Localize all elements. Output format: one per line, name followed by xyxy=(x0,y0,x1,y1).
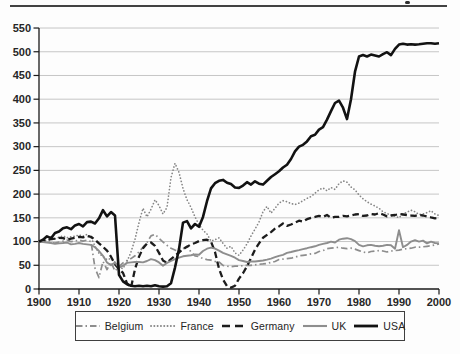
legend-item-usa: USA xyxy=(353,320,405,332)
legend-label-germany: Germany xyxy=(251,320,295,332)
legend-item-germany: Germany xyxy=(221,320,295,332)
legend-item-belgium: Belgium xyxy=(75,320,144,332)
x-axis-tick-label: 2000 xyxy=(427,296,451,308)
y-axis-tick-label: 350 xyxy=(13,117,31,129)
x-axis-tick-label: 1950 xyxy=(227,296,251,308)
legend-item-uk: UK xyxy=(302,320,347,332)
y-axis-tick-label: 200 xyxy=(13,188,31,200)
legend-line-sample-usa xyxy=(353,322,379,330)
x-axis-tick-label: 1920 xyxy=(107,296,131,308)
legend-line-sample-belgium xyxy=(75,322,101,330)
y-axis-tick-label: 450 xyxy=(13,69,31,81)
x-axis-tick-label: 1970 xyxy=(307,296,331,308)
chart-legend: BelgiumFranceGermanyUKUSA xyxy=(75,311,405,341)
x-axis-tick-label: 1940 xyxy=(187,296,211,308)
x-axis-tick-label: 1990 xyxy=(387,296,411,308)
x-axis-tick-label: 1930 xyxy=(147,296,171,308)
x-axis-tick-label: 1980 xyxy=(347,296,371,308)
legend-line-sample-germany xyxy=(221,322,247,330)
legend-label-uk: UK xyxy=(332,320,347,332)
book-figure-page: 0501001502002503003504004505005501900191… xyxy=(0,0,460,354)
line-chart: 0501001502002503003504004505005501900191… xyxy=(0,0,460,310)
y-axis-tick-label: 250 xyxy=(13,164,31,176)
series-line-belgium xyxy=(39,234,439,277)
y-axis-tick-label: 100 xyxy=(13,235,31,247)
y-axis-tick-label: 50 xyxy=(19,259,31,271)
y-axis-tick-label: 550 xyxy=(13,22,31,34)
x-axis-tick-label: 1910 xyxy=(67,296,91,308)
y-axis-tick-label: 400 xyxy=(13,93,31,105)
legend-line-sample-france xyxy=(150,322,176,330)
legend-line-sample-uk xyxy=(302,322,328,330)
x-axis-tick-label: 1900 xyxy=(27,296,51,308)
y-axis-tick-label: 300 xyxy=(13,140,31,152)
x-axis-tick-label: 1960 xyxy=(267,296,291,308)
y-axis-tick-label: 150 xyxy=(13,212,31,224)
legend-label-france: France xyxy=(180,320,213,332)
legend-label-belgium: Belgium xyxy=(105,320,144,332)
y-axis-tick-label: 0 xyxy=(25,283,31,295)
legend-label-usa: USA xyxy=(383,320,405,332)
series-line-uk xyxy=(39,230,439,267)
y-axis-tick-label: 500 xyxy=(13,46,31,58)
legend-item-france: France xyxy=(150,320,213,332)
